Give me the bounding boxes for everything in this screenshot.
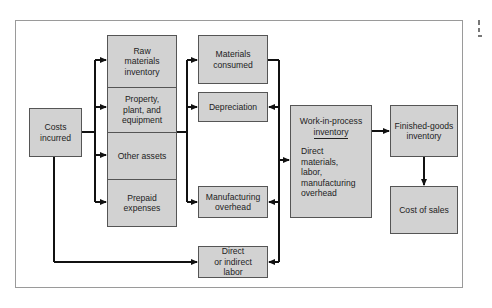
node-cost-of-sales: Cost of sales: [390, 186, 458, 234]
node-costs-incurred: Costs incurred: [29, 108, 82, 157]
node-materials-consumed: Materials consumed: [198, 35, 268, 84]
node-label: Manufacturing overhead: [206, 192, 260, 213]
node-depreciation: Depreciation: [198, 92, 268, 122]
node-label: Raw materials inventory: [125, 46, 160, 78]
wip-body: Direct materials, labor, manufacturing o…: [291, 146, 371, 199]
node-direct-indirect-labor: Direct or indirect labor: [198, 246, 268, 278]
node-label: Finished-goods inventory: [395, 121, 454, 142]
node-label: Cost of sales: [399, 205, 449, 216]
node-raw-materials-inventory: Raw materials inventory: [107, 35, 177, 88]
wip-title: Work-in-process inventory: [291, 116, 371, 139]
node-work-in-process-inventory: Work-in-process inventory Direct materia…: [290, 105, 372, 218]
node-property-plant-equipment: Property, plant, and equipment: [107, 87, 177, 133]
node-manufacturing-overhead: Manufacturing overhead: [198, 186, 268, 218]
node-label: Prepaid expenses: [124, 193, 161, 214]
node-other-assets: Other assets: [107, 132, 177, 180]
node-label: Materials consumed: [213, 49, 253, 70]
node-label: Costs incurred: [40, 122, 71, 143]
node-prepaid-expenses: Prepaid expenses: [107, 179, 177, 227]
node-label: Property, plant, and equipment: [122, 94, 162, 126]
wip-title-line1: Work-in-process: [291, 116, 371, 127]
wip-title-line2: inventory: [314, 127, 349, 140]
node-label: Other assets: [118, 151, 167, 162]
node-finished-goods-inventory: Finished-goods inventory: [390, 105, 458, 157]
cropped-edge-text: [478, 20, 484, 40]
node-label: Depreciation: [209, 102, 257, 113]
node-label: Direct or indirect labor: [214, 246, 252, 278]
